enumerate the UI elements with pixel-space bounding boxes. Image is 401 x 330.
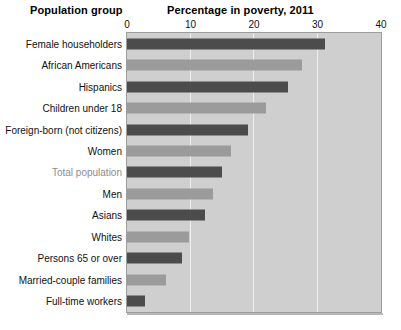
category-label: Women (88, 146, 122, 157)
bar (127, 103, 266, 114)
category-label: Foreign-born (not citizens) (5, 124, 122, 135)
bar (127, 274, 166, 285)
bar-row: Women (0, 140, 401, 161)
category-label: Total population (52, 167, 122, 178)
bar-row: African Americans (0, 54, 401, 75)
bar-row: Married-couple families (0, 269, 401, 290)
bar-rows: Female householdersAfrican AmericansHisp… (0, 0, 401, 330)
bar-row: Asians (0, 205, 401, 226)
poverty-bar-chart: Population group Percentage in poverty, … (0, 0, 401, 330)
category-label: Persons 65 or over (38, 253, 123, 264)
bar (127, 188, 213, 199)
category-label: Men (103, 188, 122, 199)
bar-row: Foreign-born (not citizens) (0, 119, 401, 140)
bar-row: Persons 65 or over (0, 248, 401, 269)
category-label: African Americans (41, 60, 122, 71)
bar (127, 146, 231, 157)
category-label: Married-couple families (19, 274, 122, 285)
bar (127, 210, 205, 221)
bar (127, 124, 248, 135)
bar-row: Whites (0, 226, 401, 247)
category-label: Whites (91, 231, 122, 242)
category-label: Children under 18 (43, 103, 123, 114)
bar (127, 231, 189, 242)
bar-row: Full-time workers (0, 291, 401, 312)
bar-row: Children under 18 (0, 97, 401, 118)
bar (127, 81, 288, 92)
bar (127, 296, 145, 307)
category-label: Female householders (26, 38, 122, 49)
bar (127, 38, 325, 49)
bar-row: Female householders (0, 33, 401, 54)
category-label: Full-time workers (46, 296, 122, 307)
bar (127, 60, 302, 71)
bar (127, 167, 222, 178)
category-label: Hispanics (79, 81, 122, 92)
bar-row: Men (0, 183, 401, 204)
category-label: Asians (92, 210, 122, 221)
bar (127, 253, 182, 264)
bar-row: Total population (0, 162, 401, 183)
bar-row: Hispanics (0, 76, 401, 97)
